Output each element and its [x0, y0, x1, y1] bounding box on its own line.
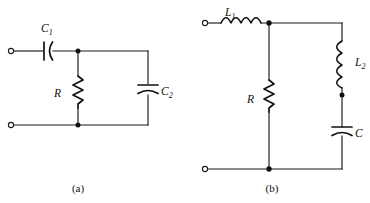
capacitor-c1-symbol	[44, 42, 53, 60]
capacitor-c2-symbol	[138, 85, 158, 94]
terminal-b-input-top	[202, 20, 207, 25]
label-c: C	[355, 127, 363, 139]
label-r-b: R	[246, 93, 254, 105]
label-c2: C2	[161, 85, 173, 100]
junction-b-bottom	[266, 166, 271, 171]
junction-b-top	[266, 20, 271, 25]
r-b-zigzag	[264, 80, 274, 112]
circuit-svg-canvas: C1 R C2 (a)	[0, 0, 370, 203]
circuit-figure: C1 R C2 (a)	[0, 0, 370, 203]
caption-subfigure-a: (a)	[72, 182, 85, 195]
c1-curved-plate	[50, 42, 53, 60]
c-curved-plate	[332, 133, 352, 136]
subfigure-a: C1 R C2 (a)	[8, 22, 172, 195]
l2-coil	[337, 41, 342, 88]
resistor-r-a-symbol	[73, 76, 83, 108]
terminal-a-input-top	[8, 48, 13, 53]
c2-curved-plate	[138, 91, 158, 94]
label-r-a: R	[53, 87, 61, 99]
r-a-zigzag	[73, 76, 83, 108]
subfigure-b: L1 R L2 C (b)	[202, 6, 365, 195]
l1-coil	[221, 18, 261, 23]
junction-b-mid-right	[340, 93, 345, 98]
label-c1: C1	[41, 22, 53, 37]
resistor-r-b-symbol	[264, 80, 274, 112]
terminal-b-input-bottom	[202, 166, 207, 171]
junction-a-top	[76, 49, 81, 54]
junction-a-bottom	[76, 123, 81, 128]
terminal-a-input-bottom	[8, 122, 13, 127]
inductor-l2-symbol	[337, 41, 342, 88]
label-l1: L1	[224, 6, 235, 21]
inductor-l1-symbol	[221, 18, 261, 23]
caption-subfigure-b: (b)	[266, 182, 279, 195]
capacitor-c-symbol	[332, 127, 352, 136]
label-l2: L2	[354, 56, 365, 71]
